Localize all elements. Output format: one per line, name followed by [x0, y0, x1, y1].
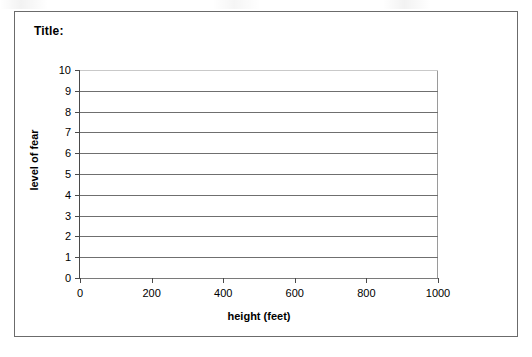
y-tick-label-2: 2: [65, 230, 71, 242]
chart-frame: Title: level of fear 10 9 8 7 6 5 4 3: [14, 11, 518, 337]
gridline-1: [80, 257, 438, 258]
gridline-7: [80, 132, 438, 133]
gridline-8: [80, 112, 438, 113]
y-tick-4: [75, 195, 80, 196]
y-tick-label-1: 1: [65, 251, 71, 263]
y-tick-label-7: 7: [65, 126, 71, 138]
y-tick-8: [75, 112, 80, 113]
x-tick-label-0: 0: [77, 287, 83, 299]
y-tick-3: [75, 216, 80, 217]
x-tick-label-600: 600: [286, 287, 304, 299]
gridline-10: [80, 70, 438, 71]
scan-artifact: [0, 0, 532, 9]
plot-area: 10 9 8 7 6 5 4 3 2 1 0 0 200 400 600 800…: [80, 70, 438, 278]
x-tick-label-1000: 1000: [426, 287, 450, 299]
x-tick-800: [366, 278, 367, 283]
y-tick-5: [75, 174, 80, 175]
y-tick-label-3: 3: [65, 210, 71, 222]
y-tick-label-9: 9: [65, 85, 71, 97]
gridline-2: [80, 236, 438, 237]
x-tick-label-400: 400: [214, 287, 232, 299]
y-tick-label-5: 5: [65, 168, 71, 180]
y-tick-label-4: 4: [65, 189, 71, 201]
gridline-4: [80, 195, 438, 196]
y-tick-label-0: 0: [65, 272, 71, 284]
x-tick-200: [152, 278, 153, 283]
gridline-3: [80, 216, 438, 217]
gridline-5: [80, 174, 438, 175]
gridline-9: [80, 91, 438, 92]
y-tick-label-6: 6: [65, 147, 71, 159]
y-tick-6: [75, 153, 80, 154]
y-tick-label-8: 8: [65, 106, 71, 118]
x-axis-line: [80, 278, 438, 279]
y-axis-title: level of fear: [28, 115, 40, 205]
chart-title: Title:: [34, 24, 64, 38]
x-tick-400: [223, 278, 224, 283]
x-axis-title: height (feet): [80, 310, 438, 322]
y-tick-9: [75, 91, 80, 92]
y-tick-10: [75, 70, 80, 71]
x-tick-1000: [438, 278, 439, 283]
x-tick-label-200: 200: [142, 287, 160, 299]
y-tick-1: [75, 257, 80, 258]
x-tick-600: [295, 278, 296, 283]
x-tick-label-800: 800: [357, 287, 375, 299]
y-tick-7: [75, 132, 80, 133]
gridline-6: [80, 153, 438, 154]
x-tick-0: [80, 278, 81, 283]
y-tick-label-10: 10: [59, 64, 71, 76]
y-tick-2: [75, 236, 80, 237]
